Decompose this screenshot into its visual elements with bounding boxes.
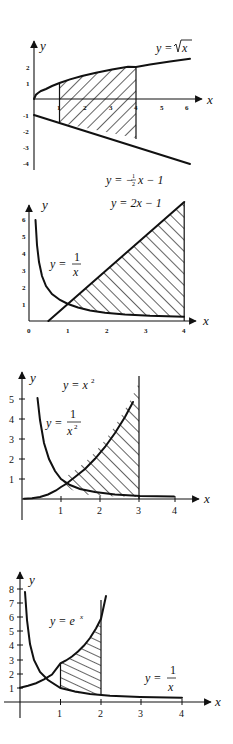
svg-text:3: 3 [22, 267, 26, 275]
graph-2-y-label: y [40, 197, 48, 212]
svg-text:x: x [66, 424, 73, 438]
svg-text:2: 2 [98, 708, 103, 719]
svg-text:2: 2 [9, 669, 14, 680]
svg-text:1: 1 [74, 250, 80, 264]
svg-text:3: 3 [144, 327, 148, 335]
svg-text:6: 6 [22, 216, 26, 224]
svg-text:3: 3 [9, 655, 14, 666]
svg-text:2: 2 [83, 104, 87, 112]
graph-4-y-ticks: 1 2 3 4 5 6 7 8 [9, 584, 23, 694]
svg-text:y = −: y = − [105, 173, 134, 187]
svg-text:8: 8 [9, 584, 14, 595]
graph-1-x-label: x [206, 92, 213, 107]
graph-4-y-label: y [27, 572, 35, 587]
graph-4-label-exp: y = e x [49, 613, 84, 628]
svg-text:y =: y = [49, 257, 66, 271]
svg-text:-4: -4 [23, 160, 29, 168]
svg-text:3: 3 [138, 708, 143, 719]
svg-text:2: 2 [91, 377, 95, 385]
svg-text:y =: y = [45, 416, 62, 430]
svg-text:1: 1 [58, 505, 63, 516]
svg-text:2: 2 [9, 454, 14, 465]
svg-text:1: 1 [9, 683, 14, 694]
graph-2-x-ticks: 0 1 2 3 4 [27, 327, 186, 335]
svg-text:2: 2 [22, 284, 26, 292]
svg-text:-2: -2 [23, 128, 29, 136]
svg-text:5: 5 [22, 233, 26, 241]
graph-3-y-ticks: 1 2 3 4 5 [9, 394, 25, 485]
graph-1-y-label: y [38, 38, 46, 53]
graph-3-x-label: x [203, 491, 210, 506]
svg-text:4: 4 [182, 327, 186, 335]
graph-1-sqrt-and-line: x y 1 2 3 4 5 6 2 1 -1 -2 -3 -4 y = x y … [23, 38, 213, 187]
graph-1-y-ticks: 2 1 -1 -2 -3 -4 [23, 64, 30, 168]
graph-3-label-x-squared: y = x 2 [62, 377, 95, 392]
graph-4-x-label: x [214, 694, 221, 709]
graph-3-parabola-and-inverse-square: x y 1 2 3 4 1 2 3 4 5 y = x 2 [9, 370, 210, 520]
svg-text:1: 1 [70, 407, 76, 421]
svg-text:x: x [167, 680, 174, 694]
svg-text:2: 2 [26, 64, 30, 72]
svg-text:4: 4 [172, 505, 177, 516]
svg-text:5: 5 [9, 394, 14, 405]
svg-text:y =: y = [155, 41, 172, 55]
graph-2-x-label: x [202, 313, 209, 328]
svg-text:x − 1: x − 1 [137, 173, 163, 187]
svg-text:7: 7 [9, 598, 14, 609]
svg-text:0: 0 [27, 327, 31, 335]
svg-text:x: x [79, 613, 84, 621]
svg-text:2: 2 [74, 423, 78, 431]
svg-text:1: 1 [57, 708, 62, 719]
svg-text:x: x [72, 265, 79, 279]
svg-text:2: 2 [105, 327, 109, 335]
svg-text:3: 3 [9, 434, 14, 445]
graph-4-label-reciprocal: y = 1 x [144, 663, 176, 694]
svg-text:y = e: y = e [49, 614, 75, 628]
graph-1-label-line: y = − 1 2 x − 1 [105, 173, 163, 187]
svg-text:1: 1 [66, 327, 70, 335]
svg-text:x: x [181, 41, 188, 55]
svg-text:y =: y = [144, 671, 161, 685]
svg-text:2: 2 [97, 505, 102, 516]
svg-text:2: 2 [132, 181, 135, 187]
svg-text:y = x: y = x [62, 378, 88, 392]
svg-text:4: 4 [22, 250, 26, 258]
graph-2-shaded-region [68, 202, 184, 317]
svg-text:1: 1 [26, 80, 30, 88]
svg-text:3: 3 [109, 104, 113, 112]
svg-text:1: 1 [170, 663, 176, 677]
svg-text:1: 1 [132, 173, 135, 179]
figure-canvas: x y 1 2 3 4 5 6 2 1 -1 -2 -3 -4 y = x y … [0, 0, 233, 744]
svg-text:4: 4 [179, 708, 184, 719]
svg-text:3: 3 [136, 505, 141, 516]
svg-text:1: 1 [22, 301, 26, 309]
graph-3-y-label: y [28, 370, 36, 385]
graph-2-y-ticks: 1 2 3 4 5 6 [22, 216, 26, 309]
svg-text:-1: -1 [23, 112, 29, 120]
svg-text:1: 1 [57, 104, 61, 112]
svg-text:-3: -3 [23, 144, 29, 152]
graph-2-label-reciprocal: y = 1 x [49, 250, 81, 279]
graph-1-label-sqrt: y = x [155, 40, 192, 55]
graph-3-label-inverse-square: y = 1 x 2 [45, 407, 81, 438]
graph-4-exponential-and-reciprocal: x y 1 2 3 4 1 2 3 4 5 6 7 [4, 572, 221, 719]
graph-2-hyperbola-and-line: x y 0 1 2 3 4 1 2 3 4 5 6 y = 2x − 1 y =… [22, 196, 209, 335]
svg-text:4: 4 [134, 104, 138, 112]
svg-text:4: 4 [9, 414, 14, 425]
svg-text:5: 5 [160, 104, 164, 112]
svg-text:6: 6 [185, 104, 189, 112]
svg-text:1: 1 [9, 474, 14, 485]
svg-text:4: 4 [9, 640, 14, 651]
svg-text:6: 6 [9, 612, 14, 623]
graph-2-label-line: y = 2x − 1 [110, 196, 162, 210]
svg-text:5: 5 [9, 626, 14, 637]
